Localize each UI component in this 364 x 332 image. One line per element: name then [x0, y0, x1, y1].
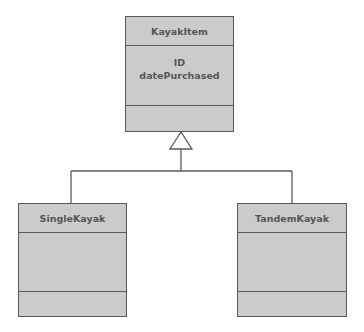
class-name: SingleKayak: [40, 213, 106, 224]
generalization-arrowhead-icon: [170, 132, 192, 149]
class-name-compartment: KayakItem: [126, 17, 233, 46]
attributes-compartment: ID datePurchased: [126, 46, 233, 106]
operations-compartment: [238, 292, 346, 316]
class-name: KayakItem: [151, 26, 208, 37]
operations-compartment: [126, 106, 233, 131]
attribute-date-purchased: datePurchased: [126, 69, 233, 82]
operations-compartment: [19, 292, 126, 316]
class-single-kayak[interactable]: SingleKayak: [18, 203, 127, 317]
attribute-id: ID: [126, 56, 233, 69]
class-name-compartment: SingleKayak: [19, 204, 126, 233]
class-name-compartment: TandemKayak: [238, 204, 346, 233]
class-tandem-kayak[interactable]: TandemKayak: [237, 203, 347, 317]
class-kayak-item[interactable]: KayakItem ID datePurchased: [125, 16, 234, 132]
class-name: TandemKayak: [255, 213, 329, 224]
attributes-compartment: [238, 233, 346, 292]
attributes-compartment: [19, 233, 126, 292]
